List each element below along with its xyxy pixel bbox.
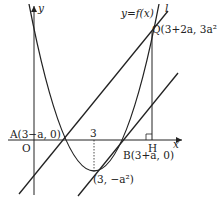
diagram-canvas: y x O y=f(x) l Q(3+2a, 3a²) A(3−a, 0) B(… xyxy=(0,0,217,197)
y-axis-label: y xyxy=(37,2,45,14)
vertex-label: (3, −a²) xyxy=(93,173,134,185)
line-l xyxy=(19,11,168,194)
parabola-curve xyxy=(29,4,159,171)
curve-label: y=f(x) xyxy=(120,7,154,19)
tick-label-3: 3 xyxy=(90,127,97,139)
line-l-label: l xyxy=(165,2,168,14)
right-angle-marker xyxy=(146,134,152,140)
point-H-label: H xyxy=(148,142,157,154)
point-A-label: A(3−a, 0) xyxy=(9,128,61,140)
origin-label: O xyxy=(22,142,31,154)
point-Q-label: Q(3+2a, 3a²) xyxy=(152,23,217,35)
